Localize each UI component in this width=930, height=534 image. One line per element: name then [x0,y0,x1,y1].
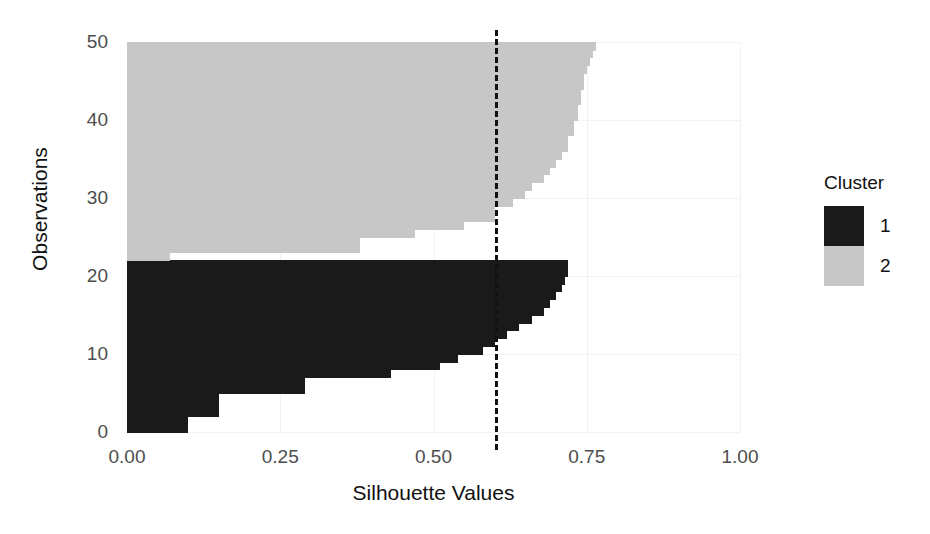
bar-cluster-2-obs-23 [127,253,170,262]
y-tick-label-3: 30 [87,187,108,209]
plot-area [127,42,740,432]
legend-entry-1: 1 [824,206,924,246]
y-axis-title: Observations [28,9,52,409]
y-tick-label-5: 50 [87,31,108,53]
bar-cluster-2-obs-28 [127,214,495,223]
bar-series-container [127,42,740,432]
silhouette-plot-figure: 0.000.250.500.751.00 01020304050 Silhoue… [0,0,930,534]
bar-cluster-1-obs-6 [127,385,305,394]
y-tick-label-4: 40 [87,109,108,131]
legend: Cluster 12 [824,172,924,286]
bar-cluster-1-obs-16 [127,307,544,316]
bar-cluster-2-obs-24 [127,245,360,254]
bar-cluster-2-obs-50 [127,42,596,51]
bar-cluster-1-obs-10 [127,354,458,363]
gridline-y-0 [127,432,740,433]
x-axis-title: Silhouette Values [127,481,740,505]
bar-cluster-1-obs-14 [127,323,519,332]
legend-label-2: 2 [880,255,891,277]
bar-cluster-2-obs-25 [127,237,360,246]
bar-cluster-2-obs-30 [127,198,513,207]
average-silhouette-line [495,30,498,450]
x-tick-label-0: 0.00 [109,446,146,468]
legend-title: Cluster [824,172,924,194]
bar-cluster-2-obs-38 [127,136,568,145]
bar-cluster-2-obs-42 [127,104,578,113]
bar-cluster-2-obs-41 [127,112,578,121]
bar-cluster-1-obs-15 [127,315,532,324]
bar-cluster-2-obs-49 [127,50,593,59]
bar-cluster-2-obs-31 [127,190,525,199]
bar-cluster-2-obs-45 [127,81,584,90]
bar-cluster-2-obs-43 [127,97,581,106]
legend-entry-2: 2 [824,246,924,286]
bar-cluster-2-obs-39 [127,128,574,137]
bar-cluster-1-obs-8 [127,370,391,379]
bar-cluster-2-obs-46 [127,73,584,82]
bar-cluster-1-obs-18 [127,292,556,301]
y-axis-tick-labels: 01020304050 [0,0,108,534]
bar-cluster-1-obs-13 [127,331,507,340]
x-tick-label-3: 0.75 [568,446,605,468]
bar-cluster-1-obs-9 [127,362,440,371]
bar-cluster-2-obs-33 [127,175,544,184]
legend-entries: 12 [824,206,924,286]
gridline-x-4 [740,42,741,432]
y-tick-label-1: 10 [87,343,108,365]
bar-cluster-1-obs-5 [127,393,219,402]
bar-cluster-1-obs-20 [127,276,565,285]
bar-cluster-1-obs-17 [127,299,550,308]
legend-label-1: 1 [880,215,891,237]
x-tick-label-2: 0.50 [415,446,452,468]
bar-cluster-1-obs-11 [127,346,483,355]
bar-cluster-2-obs-29 [127,206,495,215]
bar-cluster-1-obs-22 [127,260,568,269]
bar-cluster-2-obs-48 [127,58,590,67]
bar-cluster-1-obs-1 [127,424,188,433]
bar-cluster-2-obs-32 [127,182,532,191]
bar-cluster-2-obs-37 [127,143,568,152]
y-tick-label-2: 20 [87,265,108,287]
bar-cluster-1-obs-12 [127,338,495,347]
bar-cluster-1-obs-7 [127,377,305,386]
bar-cluster-1-obs-21 [127,268,568,277]
bar-cluster-2-obs-40 [127,120,574,129]
x-tick-label-1: 0.25 [262,446,299,468]
y-tick-label-0: 0 [97,421,108,443]
legend-swatch-2 [824,246,864,286]
bar-cluster-2-obs-44 [127,89,581,98]
bar-cluster-2-obs-47 [127,65,587,74]
bar-cluster-2-obs-27 [127,221,464,230]
bar-cluster-2-obs-34 [127,167,550,176]
bar-cluster-2-obs-26 [127,229,415,238]
bar-cluster-1-obs-2 [127,416,188,425]
legend-swatch-1 [824,206,864,246]
bar-cluster-1-obs-4 [127,401,219,410]
bar-cluster-2-obs-35 [127,159,556,168]
x-tick-label-4: 1.00 [722,446,759,468]
bar-cluster-1-obs-3 [127,409,219,418]
